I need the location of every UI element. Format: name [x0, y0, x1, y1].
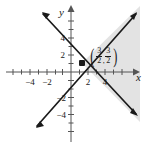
- y-coordinate-fraction: 3 2: [105, 47, 111, 65]
- x-tick-label-4: 4: [103, 77, 108, 87]
- x-numerator: 3: [96, 47, 102, 55]
- y-tick-label-2: 2: [61, 50, 66, 60]
- intersection-point-marker: [79, 60, 85, 66]
- y-tick-label-4: 4: [61, 33, 66, 43]
- x-coordinate-fraction: 3 2: [96, 47, 102, 65]
- y-tick-label--2: −2: [56, 93, 66, 103]
- x-denominator: 2: [96, 57, 102, 65]
- y-axis-label: y: [58, 6, 64, 18]
- graph-figure: x y −4 −2 2 4 4 2 −2 −4 ( 3 2 , 3 2 ): [0, 0, 149, 145]
- coordinate-plane-svg: x y −4 −2 2 4 4 2 −2 −4: [0, 0, 149, 145]
- x-axis-label: x: [135, 71, 141, 83]
- y-denominator: 2: [105, 57, 111, 65]
- y-numerator: 3: [105, 47, 111, 55]
- line-neg-x-arrowhead-upper-left: [42, 12, 50, 19]
- open-paren: (: [90, 46, 94, 66]
- x-tick-label--2: −2: [42, 77, 52, 87]
- x-tick-label--4: −4: [25, 77, 35, 87]
- y-tick-label--4: −4: [56, 110, 66, 120]
- x-tick-label-2: 2: [86, 77, 91, 87]
- close-paren: ): [113, 46, 117, 66]
- intersection-point-label: ( 3 2 , 3 2 ): [89, 46, 118, 66]
- y-axis-arrowhead: [68, 5, 75, 12]
